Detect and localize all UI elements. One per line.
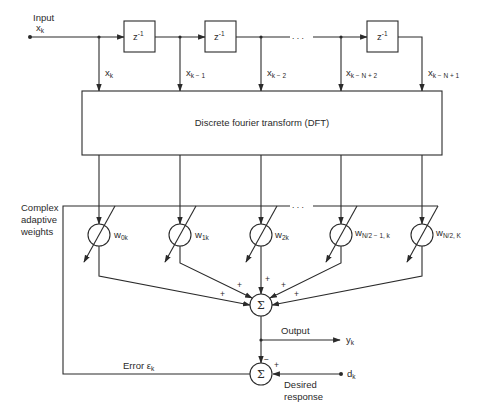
svg-text:adaptive: adaptive	[21, 214, 57, 225]
weight-3: wN/2 − 1, k	[326, 206, 391, 262]
minus-sign: −	[264, 354, 269, 364]
output-signal: yk	[346, 334, 355, 346]
input-terminal: Input xk	[28, 12, 54, 39]
delay-box-1: z-1	[124, 21, 155, 52]
weight-0: w0k	[84, 206, 128, 262]
desired-response: dk Desired response	[273, 368, 356, 402]
error-summer: Σ − +	[250, 354, 279, 385]
tap-label-1: xk − 1	[186, 67, 205, 79]
svg-text:Σ: Σ	[257, 368, 265, 381]
error-label: Error εk	[123, 360, 155, 372]
dft-output-lines	[99, 155, 422, 224]
plus-sign: +	[274, 360, 279, 370]
desired-label-2: response	[284, 391, 323, 402]
dft-label: Discrete fourier transform (DFT)	[195, 117, 330, 128]
tap-label-2: xk − 2	[267, 67, 286, 79]
svg-text:w0k: w0k	[113, 229, 128, 241]
delay-line-ellipsis: . . .	[292, 31, 304, 41]
output-label: Output	[281, 325, 310, 336]
error-feedback-bus: . . .	[63, 200, 438, 374]
svg-text:Complex: Complex	[21, 202, 59, 213]
svg-text:wN/2 − 1, k: wN/2 − 1, k	[354, 227, 391, 239]
weights-group-label: Complex adaptive weights	[20, 202, 59, 237]
desired-signal: dk	[347, 368, 356, 380]
svg-text:+: +	[281, 280, 286, 290]
tap-label-4: xk − N + 1	[428, 67, 460, 79]
svg-text:w1k: w1k	[194, 229, 209, 241]
output-line: Output yk	[259, 316, 354, 363]
feedback-ellipsis: . . .	[292, 200, 304, 210]
output-summer: Σ	[250, 294, 272, 316]
weight-1: w1k	[165, 206, 209, 262]
svg-text:+: +	[265, 274, 270, 284]
input-signal: xk	[36, 22, 45, 34]
delay-box-2: z-1	[205, 21, 236, 52]
desired-label-1: Desired	[284, 379, 317, 390]
weight-2: w2k	[246, 206, 289, 262]
svg-text:+: +	[294, 289, 299, 299]
svg-text:w2k: w2k	[274, 229, 289, 241]
dft-adaptive-filter-diagram: Input xk . . . z-1 z-1 z-1 xk xk − 1 xk …	[0, 0, 483, 412]
dft-block: Discrete fourier transform (DFT)	[82, 91, 442, 155]
tap-label-3: xk − N + 2	[346, 67, 378, 79]
svg-text:+: +	[237, 280, 242, 290]
svg-text:wN/2, K: wN/2, K	[435, 227, 462, 239]
svg-text:Σ: Σ	[257, 299, 265, 312]
svg-text:+: +	[220, 289, 225, 299]
delay-box-3: z-1	[367, 21, 398, 52]
weight-4: wN/2, K	[407, 206, 462, 262]
svg-text:weights: weights	[20, 226, 53, 237]
tap-label-0: xk	[105, 67, 114, 79]
